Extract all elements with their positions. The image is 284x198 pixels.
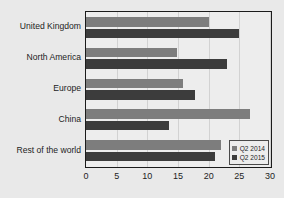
- y-axis-label: Europe: [0, 83, 81, 93]
- bar-q2-2014: [86, 79, 183, 89]
- y-axis-category-labels: United KingdomNorth AmericaEuropeChinaRe…: [0, 11, 83, 168]
- legend-label-q2-2014: Q2 2014: [240, 145, 265, 152]
- bar-q2-2014: [86, 48, 177, 58]
- bar-q2-2015: [86, 152, 215, 162]
- bar-q2-2015: [86, 29, 239, 39]
- legend-item-q2-2015: Q2 2015: [232, 153, 265, 161]
- bar-q2-2014: [86, 140, 221, 150]
- x-axis-tick-label: 30: [265, 170, 275, 182]
- y-axis-label: Rest of the world: [0, 145, 81, 155]
- y-axis-label: United Kingdom: [0, 21, 81, 31]
- chart-category-group: [86, 43, 271, 74]
- bar-q2-2015: [86, 90, 195, 100]
- x-axis-tick-label: 25: [234, 170, 244, 182]
- legend-item-q2-2014: Q2 2014: [232, 144, 265, 152]
- y-axis-label: China: [0, 114, 81, 124]
- plot-area: Q2 2014 Q2 2015: [85, 11, 272, 168]
- x-axis-tick-labels: 051015202530: [85, 170, 272, 184]
- chart-legend: Q2 2014 Q2 2015: [229, 140, 269, 165]
- caption-strip: [4, 191, 124, 198]
- x-axis-tick-label: 10: [142, 170, 152, 182]
- x-axis-tick-label: 5: [114, 170, 119, 182]
- y-axis-label: North America: [0, 52, 81, 62]
- chart-figure: United KingdomNorth AmericaEuropeChinaRe…: [0, 0, 284, 198]
- legend-swatch-icon-q2-2015: [232, 155, 237, 160]
- chart-category-group: [86, 12, 271, 43]
- legend-swatch-icon-q2-2014: [232, 146, 237, 151]
- bar-q2-2015: [86, 59, 227, 69]
- x-axis-tick-label: 20: [204, 170, 214, 182]
- x-axis-tick-label: 15: [173, 170, 183, 182]
- x-axis-tick-label: 0: [83, 170, 88, 182]
- legend-label-q2-2015: Q2 2015: [240, 154, 265, 161]
- bar-q2-2014: [86, 109, 250, 119]
- bar-q2-2015: [86, 121, 169, 131]
- chart-category-group: [86, 104, 271, 135]
- chart-category-group: [86, 74, 271, 105]
- bar-q2-2014: [86, 17, 209, 27]
